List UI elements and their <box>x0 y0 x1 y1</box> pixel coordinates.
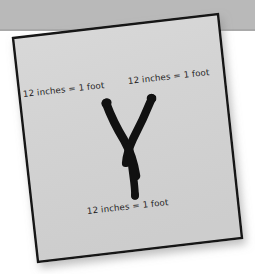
paper-note: 12 inches = 1 foot 12 inches = 1 foot 12… <box>0 0 255 274</box>
paper-shape <box>0 0 255 274</box>
scene-canvas: 12 inches = 1 foot 12 inches = 1 foot 12… <box>0 0 255 274</box>
